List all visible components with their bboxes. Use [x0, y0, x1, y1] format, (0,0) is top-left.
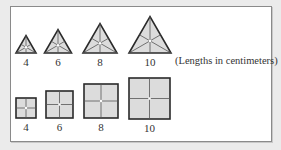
centroid-dot [99, 42, 101, 44]
square-label: 6 [45, 121, 75, 133]
units-note: (Lengths in centimeters) [175, 55, 278, 66]
centroid-dot [25, 46, 27, 48]
triangle-label: 10 [135, 56, 165, 68]
center-dot [100, 100, 102, 102]
square-label: 8 [86, 121, 116, 133]
centroid-dot [57, 44, 59, 46]
center-dot [25, 107, 27, 109]
square-label: 10 [135, 122, 165, 134]
square-label: 4 [11, 121, 41, 133]
triangle-label: 6 [43, 56, 73, 68]
center-dot [58, 103, 60, 105]
centroid-dot [149, 40, 151, 42]
triangle-label: 4 [11, 56, 41, 68]
triangle-label: 8 [85, 56, 115, 68]
center-dot [148, 97, 150, 99]
